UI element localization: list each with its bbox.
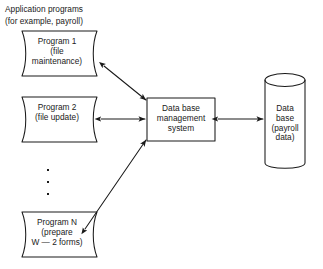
- vertical-ellipsis-icon: [41, 169, 55, 195]
- diagram-canvas: Application programs (for example, payro…: [0, 0, 323, 269]
- dbms-shape: [147, 98, 215, 141]
- program-2-shape: [22, 97, 97, 142]
- ellipsis-dot: [47, 181, 49, 183]
- connector-program-1-to-dbms: [104, 66, 146, 100]
- header-caption: Application programs (for example, payro…: [5, 3, 195, 27]
- program-1-shape: [22, 31, 97, 76]
- diagram-vector-layer: [0, 0, 323, 269]
- database-cylinder-shape: [265, 74, 305, 169]
- ellipsis-dot: [47, 193, 49, 195]
- program-n-shape: [22, 212, 97, 257]
- ellipsis-dot: [47, 169, 49, 171]
- connector-program-n-to-dbms: [85, 140, 146, 229]
